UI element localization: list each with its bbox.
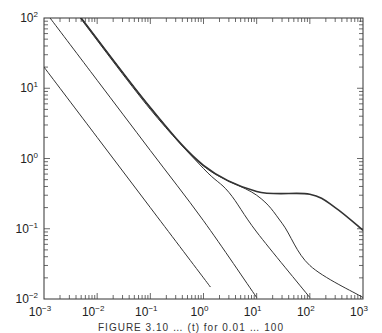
x-tick-label: 10−1 — [135, 304, 158, 319]
x-tick-label: 10−3 — [29, 304, 52, 319]
y-axis-tick-labels: 10210110010−110−2 — [16, 10, 39, 306]
curve-1 — [44, 67, 210, 287]
figure-caption: FIGURE 3.10 … (t) for 0.01 … 100 — [0, 322, 382, 333]
x-tick-label: 102 — [297, 304, 315, 319]
x-tick-label: 103 — [350, 304, 368, 319]
y-tick-label: 100 — [20, 151, 38, 166]
x-tick-label: 10−2 — [82, 304, 105, 319]
curve-2 — [50, 18, 257, 298]
curve-4 — [81, 18, 363, 298]
x-axis-tick-labels: 10−310−210−1100101102103 — [29, 304, 369, 319]
axis-ticks — [44, 18, 363, 299]
data-curves — [44, 18, 363, 298]
x-tick-label: 100 — [191, 304, 209, 319]
x-tick-label: 101 — [244, 304, 262, 319]
plot-frame — [44, 18, 363, 299]
y-tick-label: 10−1 — [16, 221, 39, 236]
y-tick-label: 10−2 — [16, 291, 39, 306]
y-tick-label: 101 — [20, 80, 38, 95]
y-tick-label: 102 — [20, 10, 38, 25]
log-log-chart: 10−310−210−1100101102103 10210110010−110… — [0, 0, 382, 333]
curve-5 — [81, 18, 363, 230]
